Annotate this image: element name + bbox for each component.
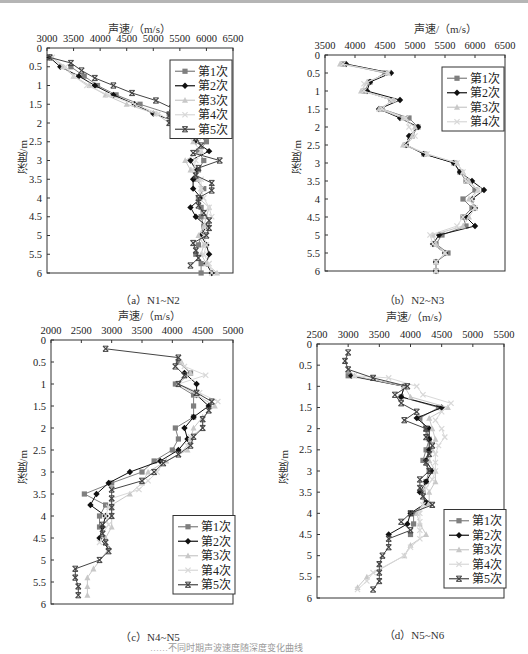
chart-caption: （d）N5~N6 bbox=[324, 626, 504, 642]
y-tick-label: 4 bbox=[37, 193, 43, 204]
chart-b-plot: 350040004500500055006000650000.511.522.5… bbox=[264, 0, 528, 300]
svg-text:第1次: 第1次 bbox=[472, 514, 502, 528]
y-tick-label: 5.5 bbox=[307, 248, 320, 259]
y-tick-label: 0.5 bbox=[299, 360, 312, 371]
x-tick-label: 4000 bbox=[162, 325, 183, 336]
x-tick-label: 4000 bbox=[345, 40, 366, 51]
legend: 第1次第2次第3次第4次 bbox=[442, 67, 504, 131]
y-tick-label: 5 bbox=[307, 550, 312, 561]
series-line bbox=[342, 350, 434, 592]
svg-text:第4次: 第4次 bbox=[472, 558, 502, 572]
x-tick-label: 5000 bbox=[462, 329, 483, 340]
svg-text:第1次: 第1次 bbox=[470, 72, 500, 86]
svg-text:第3次: 第3次 bbox=[201, 549, 231, 563]
y-tick-label: 0 bbox=[41, 335, 46, 346]
chart-panel-a: 声速/（m/s） 深度/m 30003500400045005000550060… bbox=[0, 0, 264, 300]
y-tick-label: 1.5 bbox=[299, 402, 312, 413]
figure-caption-partial: ……不同时期声波速度随深度变化曲线 bbox=[150, 641, 303, 654]
x-tick-label: 5000 bbox=[223, 325, 244, 336]
svg-text:第2次: 第2次 bbox=[198, 79, 228, 93]
chart-panel-b: 声速/（m/s） 深度/m 35004000450050005500600065… bbox=[264, 0, 528, 300]
svg-text:第3次: 第3次 bbox=[472, 543, 502, 557]
y-tick-label: 4.5 bbox=[29, 211, 42, 222]
chart-panel-c: 声速/（m/s） 深度/m 20002500300035004000450050… bbox=[0, 300, 264, 649]
svg-text:第5次: 第5次 bbox=[201, 578, 231, 592]
y-tick-label: 3.5 bbox=[307, 176, 320, 187]
x-tick-label: 5000 bbox=[405, 40, 426, 51]
y-tick-label: 5 bbox=[41, 555, 46, 566]
y-tick-label: 2 bbox=[307, 423, 312, 434]
svg-text:第1次: 第1次 bbox=[198, 65, 228, 79]
chart-panel-d: 声速/（m/s） 深度/m 25003000350040004500500055… bbox=[264, 300, 528, 649]
x-tick-label: 4500 bbox=[375, 40, 396, 51]
y-tick-label: 4.5 bbox=[33, 533, 46, 544]
svg-text:第2次: 第2次 bbox=[472, 529, 502, 543]
y-tick-label: 2 bbox=[41, 423, 46, 434]
y-tick-label: 1.5 bbox=[307, 104, 320, 115]
x-tick-label: 4500 bbox=[192, 325, 213, 336]
y-tick-label: 5.5 bbox=[299, 571, 312, 582]
x-tick-label: 3000 bbox=[338, 329, 359, 340]
svg-text:第1次: 第1次 bbox=[201, 520, 231, 534]
x-tick-label: 4000 bbox=[400, 329, 421, 340]
y-tick-label: 3 bbox=[307, 466, 312, 477]
y-tick-label: 5 bbox=[37, 230, 42, 241]
x-tick-label: 5500 bbox=[169, 33, 190, 44]
y-tick-label: 1 bbox=[41, 379, 46, 390]
x-tick-label: 3500 bbox=[63, 33, 84, 44]
y-tick-label: 3 bbox=[37, 155, 42, 166]
y-tick-label: 4 bbox=[307, 508, 313, 519]
y-tick-label: 1.5 bbox=[33, 401, 46, 412]
x-tick-label: 5000 bbox=[143, 33, 164, 44]
y-tick-label: 4.5 bbox=[299, 529, 312, 540]
y-tick-label: 0.5 bbox=[307, 68, 320, 79]
y-tick-label: 4 bbox=[315, 194, 321, 205]
y-tick-label: 4 bbox=[41, 511, 47, 522]
x-tick-label: 4500 bbox=[431, 329, 452, 340]
y-tick-label: 2 bbox=[37, 118, 42, 129]
y-tick-label: 3 bbox=[41, 467, 46, 478]
y-tick-label: 6 bbox=[37, 268, 42, 279]
x-tick-label: 5500 bbox=[494, 329, 515, 340]
y-tick-label: 5 bbox=[315, 230, 320, 241]
svg-text:第2次: 第2次 bbox=[470, 86, 500, 100]
legend: 第1次第2次第3次第4次第5次 bbox=[444, 510, 506, 589]
x-tick-label: 5500 bbox=[435, 40, 456, 51]
y-tick-label: 3.5 bbox=[29, 174, 42, 185]
svg-text:第3次: 第3次 bbox=[198, 94, 228, 108]
x-tick-label: 2500 bbox=[71, 325, 92, 336]
x-tick-label: 6500 bbox=[495, 40, 516, 51]
y-tick-label: 6 bbox=[315, 266, 320, 277]
y-tick-label: 0.5 bbox=[33, 357, 46, 368]
y-tick-label: 1 bbox=[37, 80, 42, 91]
x-tick-label: 3500 bbox=[369, 329, 390, 340]
y-tick-label: 1.5 bbox=[29, 99, 42, 110]
x-tick-label: 3000 bbox=[101, 325, 122, 336]
y-tick-label: 5.5 bbox=[29, 249, 42, 260]
y-tick-label: 0 bbox=[37, 43, 42, 54]
y-tick-label: 2.5 bbox=[299, 444, 312, 455]
y-tick-label: 6 bbox=[41, 599, 46, 610]
x-tick-label: 4000 bbox=[90, 33, 111, 44]
legend: 第1次第2次第3次第4次第5次 bbox=[173, 516, 235, 595]
y-tick-label: 3 bbox=[315, 158, 320, 169]
x-tick-label: 3500 bbox=[132, 325, 153, 336]
y-tick-label: 0 bbox=[315, 50, 320, 61]
y-tick-label: 6 bbox=[307, 593, 312, 604]
x-tick-label: 6000 bbox=[196, 33, 217, 44]
svg-text:第5次: 第5次 bbox=[472, 572, 502, 586]
chart-d-plot: 250030003500400045005000550000.511.522.5… bbox=[264, 300, 528, 649]
y-tick-label: 0 bbox=[307, 339, 312, 350]
y-tick-label: 1 bbox=[315, 86, 320, 97]
y-tick-label: 2.5 bbox=[307, 140, 320, 151]
x-tick-label: 4500 bbox=[116, 33, 137, 44]
y-tick-label: 3.5 bbox=[33, 489, 46, 500]
y-tick-label: 2.5 bbox=[33, 445, 46, 456]
x-tick-label: 6500 bbox=[223, 33, 244, 44]
y-tick-label: 1 bbox=[307, 381, 312, 392]
chart-a-plot: 3000350040004500500055006000650000.511.5… bbox=[0, 0, 264, 300]
y-tick-label: 2 bbox=[315, 122, 320, 133]
legend: 第1次第2次第3次第4次第5次 bbox=[170, 60, 232, 139]
svg-text:第4次: 第4次 bbox=[470, 115, 500, 129]
svg-text:第5次: 第5次 bbox=[198, 123, 228, 137]
